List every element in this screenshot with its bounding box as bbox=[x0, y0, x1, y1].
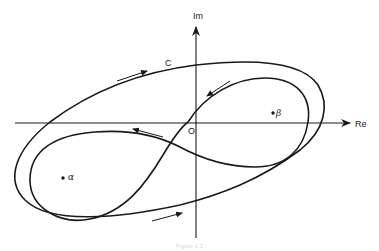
point-beta-dot bbox=[271, 111, 274, 114]
contour-label: C bbox=[165, 58, 172, 68]
figure-eight-loop bbox=[30, 78, 309, 220]
direction-arrow-bottom bbox=[152, 213, 182, 221]
imaginary-axis-label: Im bbox=[193, 11, 203, 21]
real-axis-label: Re bbox=[355, 119, 367, 129]
point-beta-label: β bbox=[275, 108, 281, 118]
point-alpha-dot bbox=[61, 176, 64, 179]
point-alpha-label: α bbox=[68, 172, 74, 182]
origin-label: O bbox=[188, 126, 195, 136]
contour-diagram: Im Re O C β α Figure 1.1 bbox=[0, 0, 379, 251]
direction-arrow-upper-center bbox=[207, 81, 230, 96]
figure-caption: Figure 1.1 bbox=[176, 243, 204, 249]
